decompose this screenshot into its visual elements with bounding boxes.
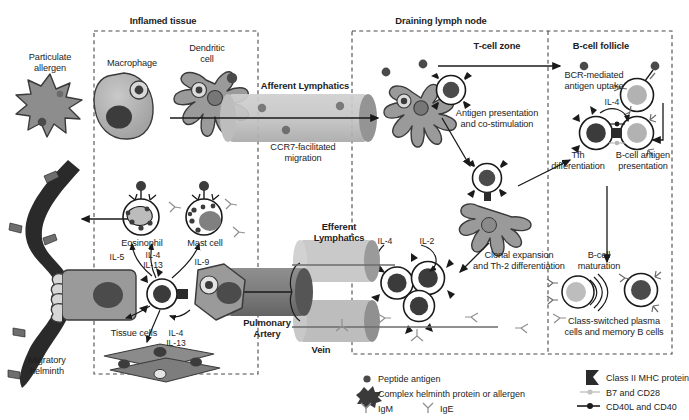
legend-ige-icon	[423, 403, 433, 413]
label-mast-cell: Mast cell	[173, 238, 237, 249]
label-eosinophil: Eosinophil	[108, 238, 176, 249]
plasma-cell-icon	[547, 274, 608, 311]
label-il4-follicle: IL-4	[597, 98, 627, 108]
th2-effector-tissue-icon	[139, 268, 188, 313]
t-cell-top-icon	[431, 72, 472, 110]
label-migratory-helminth: Migratory helminth	[10, 355, 84, 376]
label-il5: IL-5	[103, 253, 131, 263]
legend-label-class-ii-mhc: Class II MHC protein	[606, 373, 689, 383]
label-il4-clonal: IL-4	[370, 237, 400, 247]
label-il4-il13-bottom: IL-4 IL-13	[160, 329, 192, 348]
legend-label-b7-cd28: B7 and CD28	[606, 388, 660, 398]
memory-b-cell-icon	[619, 271, 661, 312]
fibroblast-cluster-icon	[104, 344, 220, 382]
label-tissue-cells: Tissue cells	[99, 328, 169, 339]
legend-label-cd40l-cd40: CD40L and CD40	[606, 402, 677, 412]
tissue-epithelial-cell-icon	[51, 270, 136, 322]
t-cell-mid-icon	[467, 160, 508, 201]
label-il2-clonal: IL-2	[412, 237, 442, 247]
label-b-cell-follicle: B-cell follicle	[556, 41, 646, 52]
arrow-apc-to-th2	[170, 310, 190, 317]
particulate-allergen-icon	[16, 74, 82, 137]
legend-class-ii-mhc-icon	[586, 370, 599, 385]
legend-label-peptide-antigen: Peptide antigen	[378, 374, 441, 384]
label-vein: Vein	[300, 345, 342, 356]
label-inflamed-tissue: Inflamed tissue	[108, 16, 218, 27]
label-il4-il13-top: IL-4 IL-13	[137, 251, 169, 270]
dendritic-cell-clonal-icon	[459, 204, 531, 256]
free-antigen-follicle	[580, 62, 589, 71]
legend-label-complex-helminth: Complex helminth protein or allergen	[378, 389, 525, 399]
label-ccr7-migration: CCR7-facilitated migration	[248, 142, 358, 163]
macrophage-icon	[94, 73, 153, 139]
legend-cd40l-cd40-icon	[577, 403, 600, 409]
label-draining-lymph-node: Draining lymph node	[366, 16, 516, 27]
label-dendritic-cell: Dendritic cell	[176, 43, 238, 64]
label-bcr-uptake: BCR-mediated antigen uptake	[551, 70, 637, 91]
legend-peptide-antigen-icon	[363, 375, 370, 382]
legend-b7-cd28-icon	[580, 389, 600, 394]
label-afferent-lymphatics: Afferent Lymphatics	[240, 81, 370, 92]
legend-label-igm: IgM	[378, 404, 393, 414]
label-pulmonary-artery: Pulmonary Artery	[230, 318, 304, 339]
label-t-cell-zone: T-cell zone	[457, 41, 537, 52]
label-particulate-allergen: Particulate allergen	[8, 52, 92, 73]
mhc-synapse	[611, 128, 622, 138]
eosinophil-icon	[123, 181, 159, 235]
mast-cell-icon	[186, 181, 222, 235]
label-bcell-antigen-presentation: B-cell antigen presentation	[605, 150, 681, 171]
label-il9: IL-9	[188, 258, 216, 268]
label-bcell-maturation: B-cell maturation	[560, 250, 638, 271]
legend-label-ige: IgE	[440, 404, 454, 414]
label-class-switched: Class-switched plasma cells and memory B…	[552, 316, 676, 337]
label-antigen-presentation: Antigen presentation and co-stimulation	[437, 108, 557, 129]
label-macrophage: Macrophage	[95, 58, 169, 69]
label-efferent-lymphatics: Efferent Lymphatics	[298, 222, 380, 243]
tfh-bcell-pair	[571, 106, 656, 156]
